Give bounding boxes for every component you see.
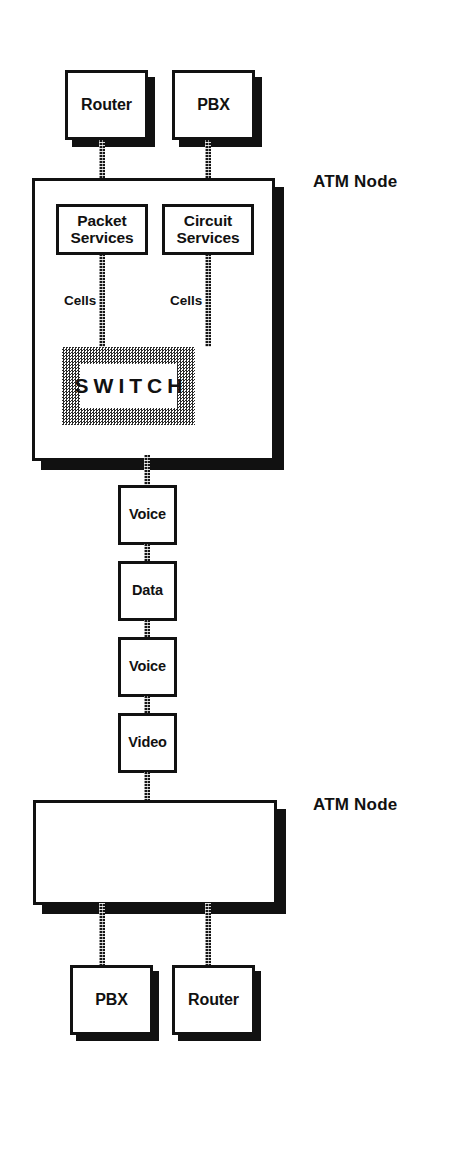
stream-label-voice-2: Voice <box>129 659 166 675</box>
atm-node-bottom-frame[interactable] <box>33 800 277 905</box>
stream-box-voice-2[interactable]: Voice <box>118 637 177 697</box>
stream-label-voice-1: Voice <box>129 507 166 523</box>
connector-packet-services-to-switch <box>99 255 105 347</box>
connector-circuit-services-to-switch <box>205 255 211 347</box>
endpoint-box-router-top[interactable]: Router <box>65 70 148 140</box>
connector-data-to-voice-2 <box>144 620 150 638</box>
stream-box-video[interactable]: Video <box>118 713 177 773</box>
endpoint-box-pbx-bottom[interactable]: PBX <box>70 965 153 1035</box>
atm-node-bottom-caption: ATM Node <box>313 795 397 815</box>
diagram-canvas: Router PBX ATM Node Packet Services Circ… <box>0 0 466 1165</box>
service-label-packet-line2: Services <box>71 230 134 247</box>
cells-label-packet: Cells <box>63 293 97 308</box>
service-label-circuit-line1: Circuit <box>184 213 232 230</box>
connector-atm-node-bottom-to-pbx <box>99 903 105 967</box>
service-box-packet-services[interactable]: Packet Services <box>56 204 148 255</box>
connector-voice-1-to-data <box>144 544 150 562</box>
stream-label-video: Video <box>128 735 167 751</box>
service-box-circuit-services[interactable]: Circuit Services <box>162 204 254 255</box>
service-label-circuit-line2: Services <box>177 230 240 247</box>
endpoint-box-pbx-top[interactable]: PBX <box>172 70 255 140</box>
cells-label-circuit: Cells <box>169 293 203 308</box>
endpoint-box-router-bottom[interactable]: Router <box>172 965 255 1035</box>
endpoint-label-router-top: Router <box>81 96 132 113</box>
switch-label: SWITCH <box>70 374 188 398</box>
atm-node-top-caption: ATM Node <box>313 172 397 192</box>
endpoint-label-pbx-bottom: PBX <box>95 991 128 1008</box>
switch-inner-panel: SWITCH <box>80 364 177 408</box>
service-label-packet-line1: Packet <box>77 213 126 230</box>
switch-block[interactable]: SWITCH <box>62 347 195 425</box>
endpoint-label-pbx-top: PBX <box>197 96 230 113</box>
stream-box-voice-1[interactable]: Voice <box>118 485 177 545</box>
stream-label-data: Data <box>132 583 163 599</box>
connector-voice-2-to-video <box>144 696 150 714</box>
connector-atm-node-bottom-to-router <box>205 903 211 967</box>
stream-box-data[interactable]: Data <box>118 561 177 621</box>
endpoint-label-router-bottom: Router <box>188 991 239 1008</box>
connector-video-to-atm-node-bottom <box>144 772 150 802</box>
connector-switch-to-voice-1 <box>144 455 150 488</box>
